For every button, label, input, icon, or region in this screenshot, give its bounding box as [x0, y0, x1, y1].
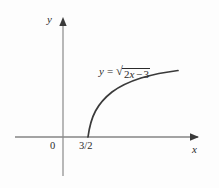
y-axis-arrowhead: [59, 17, 66, 26]
radicand-variable: x: [129, 68, 134, 80]
tick-label-x-intercept: 3/2: [79, 141, 92, 152]
equation-equals-sign: =: [107, 66, 113, 77]
x-axis-arrowhead: [190, 133, 199, 141]
radical-group: √ 2x−3: [116, 66, 150, 80]
equation-lhs: y: [99, 66, 104, 77]
x-axis-label: x: [192, 144, 197, 155]
sqrt-curve: [88, 71, 178, 138]
graph-canvas: [0, 0, 219, 188]
math-figure-sqrt-graph: y x 0 3/2 y = √ 2x−3: [0, 0, 219, 188]
y-axis-label: y: [47, 14, 52, 25]
radicand: 2x−3: [122, 68, 150, 81]
tick-label-origin: 0: [50, 141, 55, 152]
radicand-constant: 3: [144, 68, 150, 80]
radicand-operator: −: [136, 68, 142, 80]
equation-annotation: y = √ 2x−3: [99, 66, 150, 80]
